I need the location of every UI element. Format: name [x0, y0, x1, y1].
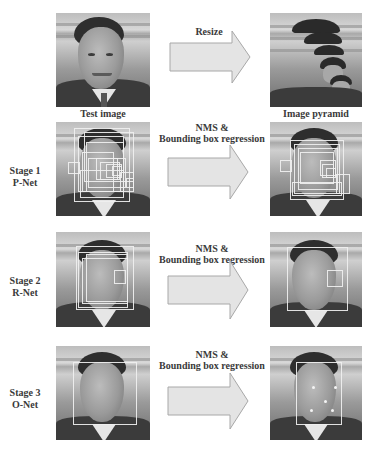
stage-3-output-image — [270, 346, 362, 440]
final-face-box — [296, 362, 342, 425]
stage-3-arrow-icon — [166, 372, 250, 430]
landmark-mouth-left — [310, 409, 313, 412]
stage-2-output-image — [270, 232, 362, 327]
stage-3-network: O-Net — [0, 399, 50, 411]
test-image — [56, 13, 150, 107]
stage-3-arrow-label: NMS & Bounding box regression — [152, 349, 272, 371]
stage-3-number: Stage 3 — [0, 387, 50, 399]
bbox-regression-label: Bounding box regression — [152, 360, 272, 371]
nms-label: NMS & — [152, 243, 272, 254]
stage-3-label: Stage 3 O-Net — [0, 387, 50, 411]
stage-1-label: Stage 1 P-Net — [0, 165, 50, 189]
stage-2-input-image — [56, 232, 150, 327]
landmark-nose — [324, 400, 327, 403]
bbox-regression-label: Bounding box regression — [152, 133, 272, 144]
nms-label: NMS & — [152, 122, 272, 133]
stage-1-input-image — [56, 122, 150, 216]
stage-2-number: Stage 2 — [0, 275, 50, 287]
stage-2-label: Stage 2 R-Net — [0, 275, 50, 299]
stage-2-network: R-Net — [0, 287, 50, 299]
image-pyramid-caption: Image pyramid — [268, 108, 364, 119]
test-image-caption: Test image — [56, 108, 150, 119]
landmark-right-eye — [334, 386, 337, 389]
landmark-left-eye — [312, 386, 315, 389]
stage-2-arrow-icon — [166, 260, 250, 320]
stage-1-number: Stage 1 — [0, 165, 50, 177]
image-pyramid — [270, 13, 362, 107]
landmark-mouth-right — [331, 409, 334, 412]
stage-1-arrow-label: NMS & Bounding box regression — [152, 122, 272, 144]
stage-3-input-image — [56, 346, 150, 440]
resize-arrow-icon — [168, 30, 252, 84]
stage-1-network: P-Net — [0, 177, 50, 189]
nms-label: NMS & — [152, 349, 272, 360]
stage-1-arrow-icon — [166, 144, 250, 200]
stage-1-output-image — [270, 122, 362, 216]
